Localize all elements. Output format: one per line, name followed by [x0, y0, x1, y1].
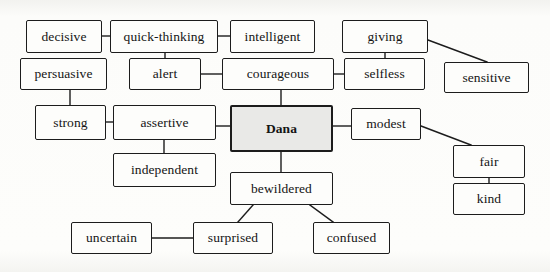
node-independent[interactable]: independent: [113, 153, 216, 187]
node-label-strong: strong: [53, 115, 87, 129]
node-quick-thinking[interactable]: quick-thinking: [110, 20, 218, 53]
node-alert[interactable]: alert: [129, 58, 201, 90]
node-label-courageous: courageous: [247, 67, 309, 81]
node-label-persuasive: persuasive: [35, 67, 93, 81]
node-label-fair: fair: [479, 154, 498, 168]
edge-giving-to-sensitive: [428, 40, 487, 62]
node-surprised[interactable]: surprised: [193, 222, 273, 254]
node-label-intelligent: intelligent: [245, 29, 301, 43]
node-bewildered[interactable]: bewildered: [230, 172, 333, 205]
node-strong[interactable]: strong: [35, 105, 106, 140]
concept-map-canvas: decisivequick-thinkingintelligentgivingp…: [0, 0, 550, 272]
node-label-giving: giving: [367, 29, 402, 43]
node-label-confused: confused: [327, 231, 377, 245]
node-label-independent: independent: [131, 163, 198, 177]
node-label-selfless: selfless: [364, 67, 405, 81]
node-uncertain[interactable]: uncertain: [71, 222, 152, 254]
node-label-uncertain: uncertain: [86, 231, 137, 245]
node-selfless[interactable]: selfless: [344, 58, 425, 90]
node-dana[interactable]: Dana: [230, 105, 333, 152]
node-confused[interactable]: confused: [313, 222, 390, 254]
node-label-dana: Dana: [266, 121, 297, 135]
node-label-modest: modest: [366, 117, 406, 131]
node-label-alert: alert: [153, 67, 177, 81]
node-label-sensitive: sensitive: [462, 70, 510, 84]
node-sensitive[interactable]: sensitive: [444, 62, 529, 93]
edge-bewildered-to-confused: [310, 205, 333, 222]
node-label-kind: kind: [477, 192, 501, 206]
node-courageous[interactable]: courageous: [222, 58, 334, 90]
edge-modest-to-fair: [421, 126, 471, 145]
node-decisive[interactable]: decisive: [26, 20, 102, 53]
node-label-quick-thinking: quick-thinking: [124, 29, 205, 43]
node-label-assertive: assertive: [140, 115, 188, 129]
node-label-surprised: surprised: [208, 231, 258, 245]
node-assertive[interactable]: assertive: [113, 105, 216, 140]
node-intelligent[interactable]: intelligent: [230, 20, 315, 53]
node-kind[interactable]: kind: [453, 183, 525, 215]
node-modest[interactable]: modest: [351, 108, 421, 140]
node-label-decisive: decisive: [41, 29, 86, 43]
node-label-bewildered: bewildered: [251, 181, 312, 195]
node-giving[interactable]: giving: [342, 20, 428, 53]
edge-bewildered-to-surprised: [238, 205, 253, 222]
node-persuasive[interactable]: persuasive: [20, 58, 107, 90]
node-fair[interactable]: fair: [453, 145, 525, 178]
